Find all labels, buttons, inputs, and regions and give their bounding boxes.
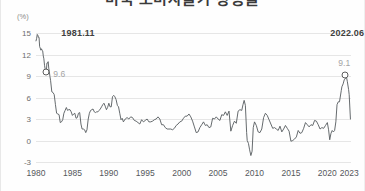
marker-peak-2022 [342,72,349,79]
y-tick-label--3: -3 [24,158,31,167]
y-tick-label-6: 6 [27,93,31,102]
value-label-peak-2022: 9.1 [338,58,350,68]
x-tick-label-1995: 1995 [136,168,155,178]
x-tick-label-2005: 2005 [209,168,228,178]
y-tick-label-9: 9 [27,72,31,81]
x-tick-label-2015: 2015 [281,168,300,178]
gridline--3 [36,162,351,163]
x-tick-label-2010: 2010 [245,168,264,178]
series-path [36,34,350,155]
x-tick-label-2000: 2000 [172,168,191,178]
chart-container: 미국 소비자물가 상승률 (%) 15129630-3 198019851990… [0,0,365,191]
y-tick-label-3: 3 [27,115,31,124]
y-axis-unit-label: (%) [17,12,29,21]
value-label-peak-1981: 9.6 [53,69,65,79]
series-line-inflation [36,33,351,162]
y-tick-label-15: 15 [22,29,31,38]
x-tick-label-1990: 1990 [99,168,118,178]
plot-area: 15129630-3 19801985199019952000200520102… [36,33,351,162]
date-label-peak-1981: 1981.11 [61,28,94,38]
y-tick-label-12: 12 [22,50,31,59]
y-tick-label-0: 0 [27,136,31,145]
x-tick-label-2020: 2020 [318,168,337,178]
chart-title-strip: 미국 소비자물가 상승률 [1,0,364,9]
marker-peak-1981 [43,68,50,75]
x-tick-label-2023: 2023 [340,168,359,178]
date-label-peak-2022: 2022.06 [330,28,364,38]
x-tick-label-1985: 1985 [63,168,82,178]
x-tick-label-1980: 1980 [27,168,46,178]
chart-title: 미국 소비자물가 상승률 [1,0,364,8]
